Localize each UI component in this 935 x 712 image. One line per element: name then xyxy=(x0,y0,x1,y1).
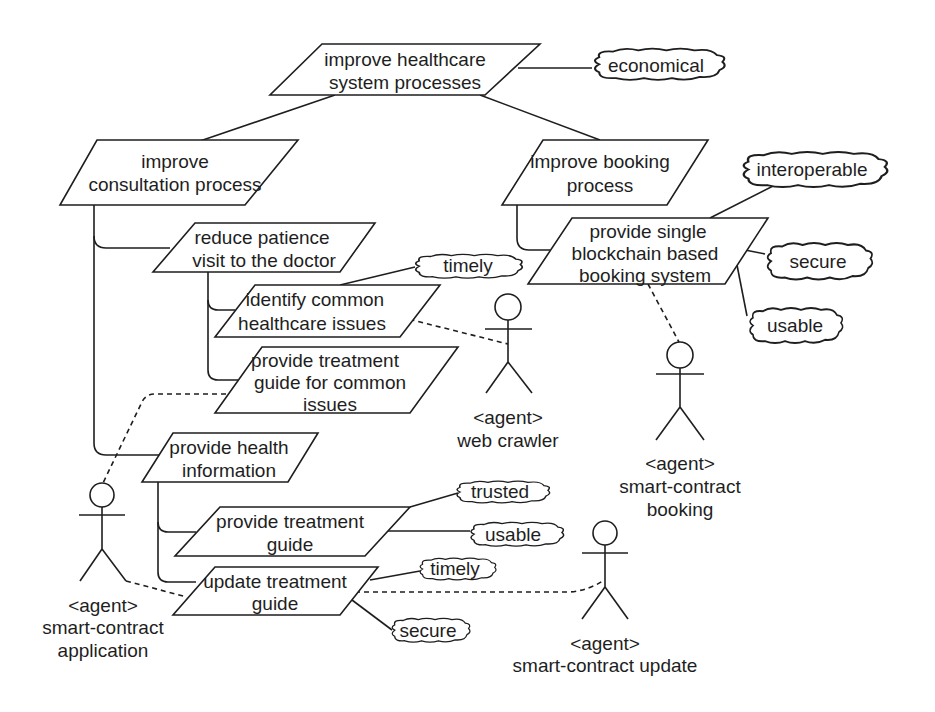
goal-update-line1: update treatment xyxy=(203,571,347,592)
link-update-timely xyxy=(370,571,420,580)
goal-booking-line1: improve booking xyxy=(530,151,669,172)
softgoal-trusted[interactable]: trusted xyxy=(457,481,550,503)
goal-health-line1: provide health xyxy=(169,437,288,458)
softgoal-economical[interactable]: economical xyxy=(595,49,725,80)
goal-reduce-line1: reduce patience xyxy=(194,227,329,248)
softgoal-secure-booking-label: secure xyxy=(789,251,846,272)
stick-figure-icon xyxy=(582,521,628,619)
softgoal-interoperable-label: interoperable xyxy=(757,159,868,180)
softgoal-economical-label: economical xyxy=(608,55,704,76)
dash-update-updateactor xyxy=(355,580,604,592)
link-consultation-children xyxy=(94,205,170,248)
link-root-booking xyxy=(480,95,600,140)
stick-figure-icon xyxy=(485,294,532,393)
link-reduce-identify xyxy=(208,272,235,310)
goal-health-information[interactable]: provide health information xyxy=(142,433,318,482)
link-single-usable xyxy=(737,265,747,316)
link-single-secure xyxy=(745,250,765,254)
softgoal-interoperable[interactable]: interoperable xyxy=(744,152,888,187)
actor-web-crawler-name: web crawler xyxy=(456,430,559,451)
actor-web-crawler-stereotype: <agent> xyxy=(473,407,543,428)
link-treatment-trusted xyxy=(410,493,458,507)
link-identify-timely xyxy=(340,267,415,285)
goal-consultation-line2: consultation process xyxy=(88,174,261,195)
stick-figure-icon xyxy=(79,483,126,581)
goal-single-line3: booking system xyxy=(579,265,711,286)
goal-treatment-guide[interactable]: provide treatment guide xyxy=(175,507,410,556)
actor-application-stereotype: <agent> xyxy=(68,595,138,616)
actor-booking-name2: booking xyxy=(647,499,714,520)
goal-update-line2: guide xyxy=(252,593,299,614)
softgoal-timely-upper[interactable]: timely xyxy=(416,254,522,278)
goal-treatment-line2: guide xyxy=(267,534,314,555)
softgoal-secure-booking[interactable]: secure xyxy=(768,243,873,279)
softgoal-usable-booking-label: usable xyxy=(767,315,823,336)
goal-root[interactable]: improve healthcare system processes xyxy=(270,44,540,95)
actor-smart-contract-application[interactable]: <agent> smart-contract application xyxy=(42,483,164,661)
goal-identify-line2: healthcare issues xyxy=(238,313,386,334)
link-root-consultation xyxy=(200,95,335,141)
goal-treatment-common-line3: issues xyxy=(303,394,357,415)
softgoal-trusted-label: trusted xyxy=(471,481,529,502)
link-consultation-health xyxy=(94,236,160,455)
actor-booking-stereotype: <agent> xyxy=(645,453,715,474)
link-booking-single xyxy=(517,205,550,250)
goal-improve-booking[interactable]: improve booking process xyxy=(502,140,708,205)
goal-improve-consultation[interactable]: improve consultation process xyxy=(60,140,298,205)
goal-identify-line1: identify common xyxy=(246,289,384,310)
goal-treatment-common[interactable]: provide treatment guide for common issue… xyxy=(215,347,458,415)
stick-figure-icon xyxy=(656,342,704,440)
softgoal-usable-guide-label: usable xyxy=(485,524,541,545)
goal-identify-issues[interactable]: identify common healthcare issues xyxy=(215,285,440,337)
goal-single-booking[interactable]: provide single blockchain based booking … xyxy=(528,218,768,286)
link-health-treatment xyxy=(158,482,196,532)
goal-root-line2: system processes xyxy=(329,72,481,93)
actor-update-stereotype: <agent> xyxy=(570,633,640,654)
goal-health-line2: information xyxy=(182,460,276,481)
link-single-interoperable xyxy=(710,185,775,218)
actor-application-name2: application xyxy=(58,640,149,661)
goal-model-diagram: improve healthcare system processes impr… xyxy=(0,0,935,712)
goal-treatment-common-line2: guide for common xyxy=(254,372,406,393)
softgoal-timely-lower-label: timely xyxy=(430,558,480,579)
goal-consultation-line1: improve xyxy=(141,151,209,172)
softgoal-usable-guide[interactable]: usable xyxy=(471,522,564,546)
actor-smart-contract-booking[interactable]: <agent> smart-contract booking xyxy=(619,342,741,520)
goal-reduce-visit[interactable]: reduce patience visit to the doctor xyxy=(153,223,375,272)
actor-application-name1: smart-contract xyxy=(42,617,164,638)
softgoal-usable-booking[interactable]: usable xyxy=(750,308,843,343)
actor-booking-name1: smart-contract xyxy=(619,476,741,497)
softgoal-secure-lower-label: secure xyxy=(399,620,456,641)
goal-treatment-common-line1: provide treatment xyxy=(251,350,400,371)
goal-booking-line2: process xyxy=(567,175,634,196)
softgoal-secure-lower[interactable]: secure xyxy=(392,618,470,642)
goal-single-line2: blockchain based xyxy=(572,243,719,264)
softgoal-timely-upper-label: timely xyxy=(443,255,493,276)
link-update-secure xyxy=(352,600,392,630)
goal-single-line1: provide single xyxy=(589,221,706,242)
goal-root-line1: improve healthcare xyxy=(324,49,486,70)
goal-treatment-line1: provide treatment xyxy=(216,511,365,532)
softgoal-timely-lower[interactable]: timely xyxy=(420,558,496,580)
goal-reduce-line2: visit to the doctor xyxy=(192,250,336,271)
goal-update-guide[interactable]: update treatment guide xyxy=(173,567,378,615)
actor-update-name: smart-contract update xyxy=(513,655,698,676)
dash-single-booking-actor xyxy=(648,284,679,342)
actor-web-crawler[interactable]: <agent> web crawler xyxy=(456,294,559,451)
